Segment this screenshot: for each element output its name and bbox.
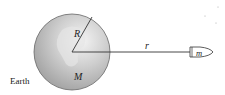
earth-label: Earth — [10, 76, 30, 86]
radius-label: R — [73, 28, 80, 39]
satellite-mass-label: m — [196, 48, 202, 58]
mass-earth-label: M — [73, 71, 83, 82]
distance-label: r — [145, 40, 149, 51]
gravitation-diagram: R M r m Earth — [0, 0, 225, 95]
